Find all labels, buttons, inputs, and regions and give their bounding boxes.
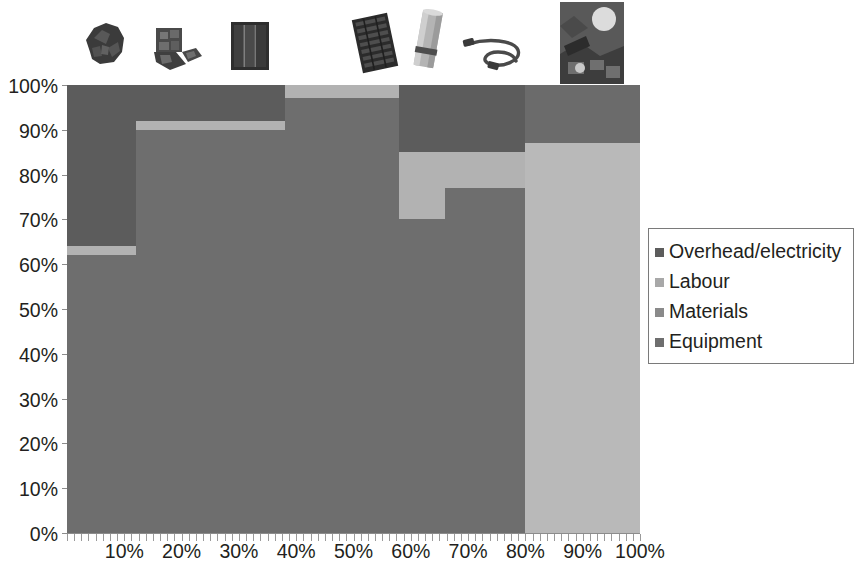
mosaic-column xyxy=(399,85,445,533)
mosaic-column xyxy=(216,85,285,533)
mosaic-segment xyxy=(216,121,285,130)
mosaic-segment xyxy=(136,121,216,130)
legend-item-label: Materials xyxy=(669,302,748,322)
silicon-rock-icon xyxy=(80,18,128,70)
cable-icon xyxy=(462,34,528,74)
y-axis-tick-label: 100% xyxy=(0,75,58,98)
mosaic-column xyxy=(445,85,525,533)
legend-item-label: Labour xyxy=(669,272,730,292)
y-axis-tick xyxy=(62,309,67,310)
mosaic-segment xyxy=(445,85,525,152)
mosaic-segment xyxy=(67,85,136,246)
mosaic-segment xyxy=(525,85,640,143)
y-axis-tick-label: 60% xyxy=(0,254,58,277)
mosaic-segment xyxy=(445,188,525,533)
mosaic-segment xyxy=(216,85,285,121)
mosaic-segment xyxy=(285,85,400,98)
legend-swatch-icon xyxy=(655,248,664,257)
y-axis-tick xyxy=(62,443,67,444)
legend-item-2[interactable]: Materials xyxy=(655,297,853,327)
legend-swatch-icon xyxy=(655,278,664,287)
mosaic-segment xyxy=(399,152,445,219)
mosaic-segment xyxy=(136,85,216,121)
legend-item-0[interactable]: Overhead/electricity xyxy=(655,237,853,267)
process-step-thumbnails xyxy=(0,0,862,85)
y-axis-labels: 0%10%20%30%40%50%60%70%80%90%100% xyxy=(0,85,58,533)
legend: Overhead/electricityLabourMaterialsEquip… xyxy=(648,228,854,364)
y-axis-tick-label: 50% xyxy=(0,299,58,322)
mosaic-segment xyxy=(67,246,136,255)
polysilicon-chunks-icon xyxy=(152,26,204,72)
legend-item-label: Equipment xyxy=(669,332,762,352)
y-axis-tick xyxy=(62,85,67,86)
y-axis-tick xyxy=(62,175,67,176)
legend-item-label: Overhead/electricity xyxy=(669,242,841,262)
solar-cell-icon xyxy=(345,12,405,74)
legend-item-1[interactable]: Labour xyxy=(655,267,853,297)
mosaic-column xyxy=(67,85,136,533)
mosaic-column xyxy=(525,85,640,533)
y-axis-tick-label: 40% xyxy=(0,344,58,367)
y-axis-tick-label: 30% xyxy=(0,389,58,412)
legend-item-3[interactable]: Equipment xyxy=(655,327,853,357)
y-axis-tick xyxy=(62,354,67,355)
x-axis-labels: 10%20%30%40%50%60%70%80%90%100% xyxy=(0,540,862,570)
y-axis-tick xyxy=(62,130,67,131)
mosaic-column xyxy=(285,85,400,533)
aluminium-roll-icon xyxy=(408,8,448,72)
mosaic-segment xyxy=(216,130,285,533)
y-axis-tick-label: 70% xyxy=(0,209,58,232)
mosaic-segment xyxy=(285,98,400,533)
y-axis-tick xyxy=(62,264,67,265)
y-axis xyxy=(62,85,67,533)
mosaic-segment xyxy=(445,152,525,188)
y-axis-tick xyxy=(62,219,67,220)
y-axis-tick-label: 90% xyxy=(0,120,58,143)
y-axis-tick-label: 20% xyxy=(0,433,58,456)
y-axis-tick xyxy=(62,488,67,489)
silicon-ingot-icon xyxy=(228,20,272,72)
y-axis-tick-label: 80% xyxy=(0,165,58,188)
y-axis-tick-label: 10% xyxy=(0,478,58,501)
mosaic-column xyxy=(136,85,216,533)
mosaic-segment xyxy=(67,255,136,533)
pv-installation-icon xyxy=(560,2,624,84)
plot-area xyxy=(67,85,640,533)
mosaic-segment xyxy=(525,143,640,533)
legend-swatch-icon xyxy=(655,308,664,317)
y-axis-tick xyxy=(62,399,67,400)
legend-swatch-icon xyxy=(655,338,664,347)
mosaic-chart: 0%10%20%30%40%50%60%70%80%90%100% 10%20%… xyxy=(0,0,862,578)
mosaic-segment xyxy=(399,219,445,533)
mosaic-segment xyxy=(136,130,216,533)
x-axis-tick-label: 100% xyxy=(600,540,680,563)
mosaic-segment xyxy=(399,85,445,152)
